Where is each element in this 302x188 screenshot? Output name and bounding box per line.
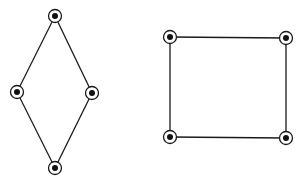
node-top-right xyxy=(280,32,293,45)
edge-right-bottom xyxy=(55,93,92,168)
node-top-left xyxy=(164,31,177,44)
edge-top-right xyxy=(55,16,92,93)
node-dot-icon xyxy=(89,90,95,96)
edge-bottom-right-bottom-left xyxy=(170,137,286,138)
node-dot-icon xyxy=(167,134,173,140)
node-top xyxy=(49,10,62,23)
edge-left-bottom xyxy=(17,92,55,168)
node-bottom xyxy=(49,162,62,175)
node-left xyxy=(11,86,24,99)
node-dot-icon xyxy=(52,13,58,19)
square-graph xyxy=(164,31,293,145)
node-dot-icon xyxy=(283,35,289,41)
node-dot-icon xyxy=(283,135,289,141)
node-right xyxy=(86,87,99,100)
node-bottom-left xyxy=(164,131,177,144)
graph-diagram xyxy=(0,0,302,188)
edge-top-left xyxy=(17,16,55,92)
diamond-graph xyxy=(11,10,99,175)
node-dot-icon xyxy=(52,165,58,171)
edge-top-left-top-right xyxy=(170,37,286,38)
node-dot-icon xyxy=(167,34,173,40)
node-bottom-right xyxy=(280,132,293,145)
node-dot-icon xyxy=(14,89,20,95)
